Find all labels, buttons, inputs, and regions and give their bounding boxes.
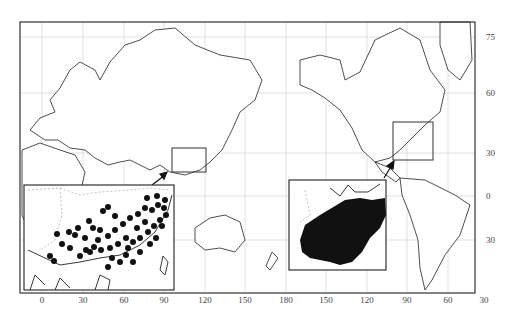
y-tick: 75 — [486, 33, 495, 42]
new-zealand — [266, 252, 278, 270]
world-map — [0, 0, 512, 327]
x-tick: 90 — [160, 296, 169, 305]
x-tick: 150 — [238, 296, 252, 305]
x-tick: 30 — [480, 296, 489, 305]
x-tick: 0 — [40, 296, 45, 305]
x-tick: 30 — [79, 296, 88, 305]
south-america — [400, 178, 470, 290]
x-tick: 180 — [279, 296, 293, 305]
x-tick: 120 — [360, 296, 374, 305]
y-tick: 30 — [486, 149, 495, 158]
north-america — [300, 28, 445, 162]
x-tick: 60 — [120, 296, 129, 305]
x-tick: 90 — [403, 296, 412, 305]
australia — [195, 215, 245, 252]
x-tick: 150 — [319, 296, 333, 305]
asia-inset — [24, 185, 174, 290]
x-tick: 60 — [444, 296, 453, 305]
y-tick: 60 — [486, 89, 495, 98]
x-tick: 120 — [198, 296, 212, 305]
y-tick: 30 — [486, 236, 495, 245]
greenland — [440, 22, 472, 80]
na-inset — [289, 180, 386, 270]
y-tick: 0 — [486, 192, 491, 201]
